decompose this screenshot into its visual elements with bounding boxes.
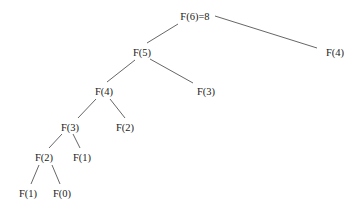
tree-node-label: F(2) bbox=[116, 122, 135, 134]
tree-nodes: F(6)=8F(5)F(4)F(4)F(3)F(3)F(2)F(2)F(1)F(… bbox=[19, 11, 345, 200]
tree-edge-n7-n9 bbox=[31, 165, 39, 184]
tree-edge-n5-n8 bbox=[73, 134, 80, 148]
tree-edge-n7-n10 bbox=[52, 165, 60, 184]
tree-edge-n0-n1 bbox=[147, 24, 178, 43]
tree-edge-n1-n3 bbox=[107, 60, 135, 82]
tree-node-label: F(4) bbox=[95, 86, 114, 98]
tree-node-label: F(1) bbox=[19, 188, 38, 200]
tree-node-label: F(3) bbox=[197, 86, 216, 98]
tree-edge-n5-n7 bbox=[49, 134, 62, 148]
fibonacci-recursion-tree: F(6)=8F(5)F(4)F(4)F(3)F(3)F(2)F(2)F(1)F(… bbox=[0, 0, 362, 210]
tree-node-label: F(0) bbox=[53, 188, 72, 200]
tree-node-label: F(2) bbox=[35, 152, 54, 164]
tree-node-label: F(4) bbox=[326, 47, 345, 59]
tree-edge-n0-n2 bbox=[215, 16, 317, 48]
tree-node-label: F(5) bbox=[133, 47, 152, 59]
tree-edge-n1-n4 bbox=[150, 59, 193, 83]
tree-edge-n3-n6 bbox=[110, 99, 125, 118]
tree-edge-n3-n5 bbox=[78, 99, 96, 118]
tree-node-label: F(1) bbox=[73, 152, 92, 164]
tree-node-label: F(3) bbox=[61, 122, 80, 134]
tree-node-label: F(6)=8 bbox=[180, 11, 209, 23]
